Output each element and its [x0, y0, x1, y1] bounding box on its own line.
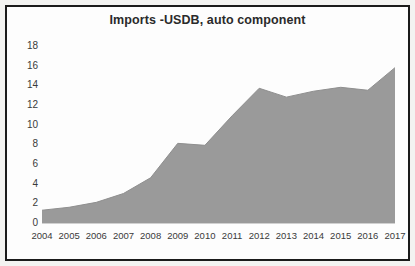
y-tick-label: 6	[7, 159, 38, 169]
x-tick-label: 2016	[357, 231, 378, 241]
plot-area	[42, 46, 395, 223]
y-tick-label: 4	[7, 179, 38, 189]
x-tick-label: 2014	[303, 231, 324, 241]
x-tick-label: 2007	[113, 231, 134, 241]
area-chart-svg	[42, 46, 395, 223]
x-tick-label: 2006	[86, 231, 107, 241]
chart-figure-frame: Imports -USDB, auto component 0246810121…	[5, 5, 410, 261]
x-tick-label: 2015	[330, 231, 351, 241]
x-tick-label: 2011	[222, 231, 242, 241]
y-tick-label: 8	[7, 139, 38, 149]
y-tick-label: 2	[7, 198, 38, 208]
chart-title: Imports -USDB, auto component	[7, 13, 408, 27]
x-axis-tick-labels: 2004200520062007200820092010201120122013…	[42, 231, 395, 247]
y-tick-label: 0	[7, 218, 38, 228]
y-axis-tick-labels: 024681012141618	[7, 46, 38, 223]
y-tick-label: 18	[7, 41, 38, 51]
x-tick-label: 2017	[384, 231, 405, 241]
y-tick-label: 16	[7, 61, 38, 71]
y-tick-label: 14	[7, 80, 38, 90]
x-tick-label: 2008	[140, 231, 161, 241]
chart-figure-outer: Imports -USDB, auto component 0246810121…	[0, 0, 415, 266]
y-tick-label: 10	[7, 120, 38, 130]
x-tick-label: 2010	[194, 231, 215, 241]
y-tick-label: 12	[7, 100, 38, 110]
x-tick-label: 2009	[167, 231, 188, 241]
x-axis-line	[42, 223, 395, 224]
area-series-fill	[42, 68, 395, 223]
x-tick-label: 2013	[276, 231, 297, 241]
x-tick-label: 2004	[31, 231, 52, 241]
x-tick-label: 2012	[249, 231, 270, 241]
x-tick-label: 2005	[59, 231, 80, 241]
